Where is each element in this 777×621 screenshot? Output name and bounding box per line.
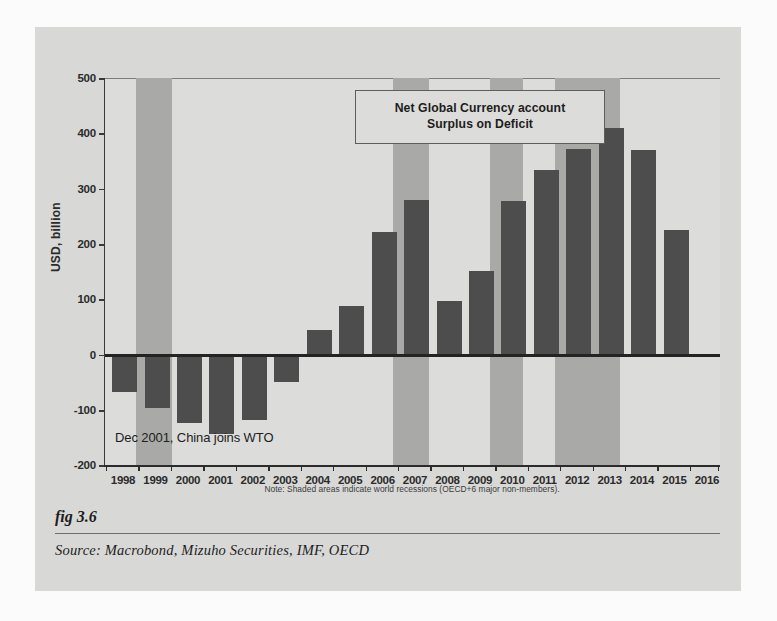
caption-divider <box>55 533 720 534</box>
y-label-neg100: -100 <box>74 404 96 416</box>
bar-chart: USD, billion 500 400 <box>35 27 741 497</box>
figure-source: Source: Macrobond, Mizuho Securities, IM… <box>55 542 369 559</box>
y-label-100: 100 <box>77 293 96 305</box>
y-label-0: 0 <box>90 349 96 361</box>
chart-title-box: Net Global Currency account Surplus on D… <box>355 90 605 144</box>
bar-1999 <box>145 355 170 409</box>
bar-2007 <box>404 200 429 355</box>
y-label-300: 300 <box>77 183 96 195</box>
bar-2006 <box>372 232 397 355</box>
chart-note: Note: Shaded areas indicate world recess… <box>104 484 720 494</box>
y-label-neg200: -200 <box>74 459 96 471</box>
bar-2003 <box>274 355 299 383</box>
bar-2011 <box>534 170 559 354</box>
bar-2004 <box>307 330 332 355</box>
figure-page: USD, billion 500 400 <box>0 0 777 621</box>
bar-1998 <box>112 355 137 393</box>
bar-2012 <box>566 149 591 355</box>
x-axis: 1998 1999 2000 2001 2002 2003 2004 2005 … <box>104 465 720 467</box>
y-axis-title: USD, billion <box>49 202 63 272</box>
y-label-400: 400 <box>77 127 96 139</box>
annotation-china-wto: Dec 2001, China joins WTO <box>115 430 273 445</box>
plot-area: 500 400 300 200 100 <box>104 78 720 465</box>
y-label-500: 500 <box>77 72 96 84</box>
bar-2009 <box>469 271 494 355</box>
bar-2013 <box>599 128 624 355</box>
chart-title-line-1: Net Global Currency account <box>362 100 598 116</box>
y-label-200: 200 <box>77 238 96 250</box>
figure-label: fig 3.6 <box>55 508 97 526</box>
chart-title-line-2: Surplus on Deficit <box>362 116 598 132</box>
figure-plate: USD, billion 500 400 <box>35 27 741 591</box>
bar-2010 <box>501 201 526 355</box>
bar-2001 <box>209 355 234 434</box>
bar-2000 <box>177 355 202 423</box>
bar-2002 <box>242 355 267 420</box>
bar-2014 <box>631 150 656 355</box>
zero-axis-line <box>105 354 720 357</box>
bar-2005 <box>339 306 364 355</box>
bar-2008 <box>437 301 462 355</box>
bar-2015 <box>664 230 689 355</box>
